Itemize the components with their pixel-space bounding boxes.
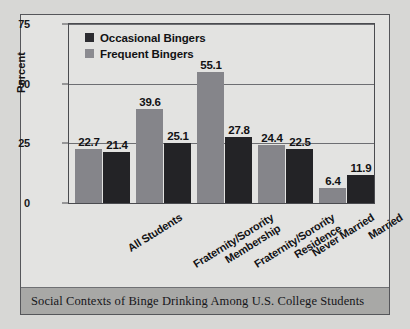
y-axis-tick-label: 25 [0,137,30,149]
square-swatch-icon [85,49,94,58]
bar-occasional [225,137,252,203]
legend-item-occasional: Occasional Bingers [85,31,206,44]
bar-occasional [347,175,374,203]
bar-frequent [197,72,224,204]
y-axis-tick-mark [62,83,68,84]
legend-label-occasional: Occasional Bingers [100,32,206,44]
bar-frequent [136,109,163,204]
bar-frequent [258,145,285,203]
bar-value-label: 27.8 [222,124,256,136]
bar-value-label: 11.9 [344,162,378,174]
chart-legend: Occasional Bingers Frequent Bingers [85,31,206,63]
bar-group: 6.411.9 [319,24,374,203]
bar-value-label: 25.1 [161,130,195,142]
y-axis-tick-label: 0 [0,197,30,209]
bar-frequent [75,149,102,203]
bar-group: 24.422.5 [258,24,313,203]
legend-item-frequent: Frequent Bingers [85,47,206,60]
bar-value-label: 39.6 [133,96,167,108]
y-axis-tick-label: 50 [0,78,30,90]
bar-occasional [164,143,191,203]
chart-figure: 22.721.439.625.155.127.824.422.56.411.9 … [20,14,390,315]
plot-area: 22.721.439.625.155.127.824.422.56.411.9 … [68,23,375,204]
square-swatch-icon [85,33,94,42]
bar-value-label: 21.4 [100,139,134,151]
bar-value-label: 22.5 [283,136,317,148]
y-axis-tick-mark [62,143,68,144]
bar-frequent [319,188,346,203]
caption-text: Social Contexts of Binge Drinking Among … [21,294,364,309]
y-axis-tick-mark [62,24,68,25]
y-axis-tick-mark [62,203,68,204]
x-axis-tick-labels: All StudentsFraternity/SororityMembershi… [68,205,375,283]
x-axis-tick-label-line: All Students [125,211,184,255]
x-axis-tick-label: All Students [125,211,184,255]
bar-value-label: 6.4 [316,175,350,187]
caption-bar: Social Contexts of Binge Drinking Among … [21,287,389,314]
bar-occasional [286,149,313,203]
y-axis-tick-label: 75 [0,18,30,30]
bar-occasional [103,152,130,203]
legend-label-frequent: Frequent Bingers [100,48,194,60]
